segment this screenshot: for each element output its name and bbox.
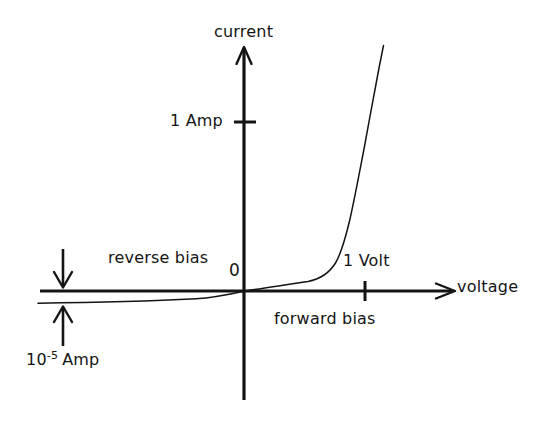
reverse-current-exponent: -5 <box>47 349 58 362</box>
reverse-current-unit: Amp <box>62 350 99 369</box>
y-axis-title: current <box>214 24 273 40</box>
origin-label: 0 <box>229 262 240 279</box>
x-axis-title: voltage <box>457 279 518 295</box>
reverse-current-callout <box>54 249 72 346</box>
iv-curve-path <box>38 46 384 304</box>
reverse-bias-label: reverse bias <box>108 250 208 266</box>
forward-bias-label: forward bias <box>274 311 376 327</box>
x-axis-tick-label-1volt: 1 Volt <box>343 253 390 269</box>
reverse-saturation-current-label: 10-5Amp <box>26 350 99 368</box>
diode-iv-curve <box>38 46 384 304</box>
diode-iv-characteristic-figure: current 1 Amp reverse bias 0 1 Volt volt… <box>0 0 540 430</box>
reverse-current-base: 10 <box>26 350 47 369</box>
y-axis <box>234 47 256 400</box>
y-axis-tick-label-1amp: 1 Amp <box>170 113 223 129</box>
